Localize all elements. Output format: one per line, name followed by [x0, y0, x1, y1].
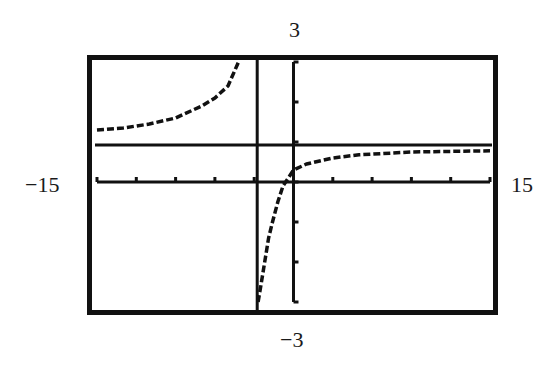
- graph-window: [0, 0, 545, 374]
- curve-branch: [97, 62, 239, 130]
- axes: [97, 62, 490, 302]
